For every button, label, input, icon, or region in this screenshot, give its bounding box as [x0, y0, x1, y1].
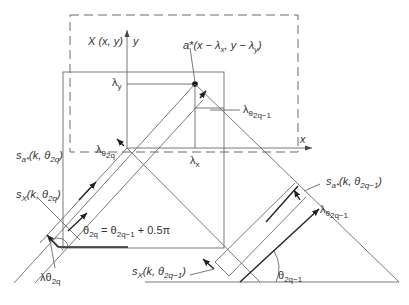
s-x-theta-2q-1-arrow	[203, 259, 214, 269]
strip-2q-1-line-a	[215, 183, 295, 262]
lambda-theta-2q-bottom-label: λθ2q	[40, 271, 61, 286]
s-x-theta-2q-1-leader	[190, 269, 214, 275]
strip-2q-1-cap	[215, 262, 229, 276]
s-a-theta-2q-label: sa*(k, θ2q)	[16, 149, 63, 164]
s-a-theta-2q-1-leader	[304, 184, 320, 191]
a-star-label: a*(x − λx, y − λy)	[183, 39, 262, 54]
s-x-theta-2q-label: sX(k, θ2q)	[16, 188, 61, 203]
strip-2q-line-upper	[14, 84, 195, 283]
lambda-theta-2q-1-label-bottom: λθ2q−1	[320, 203, 349, 220]
s-x-theta-2q-1-label: sX(k, θ2q−1)	[132, 265, 186, 280]
s-a-theta-2q-1-arrow	[266, 186, 298, 222]
x-axis-label: x	[299, 133, 306, 145]
function-x-label: X (x, y)	[87, 35, 123, 47]
y-axis-label: y	[132, 35, 140, 47]
lambda-x-label: λx	[190, 154, 200, 169]
lambda-theta-2q-1-label-top: λθ2q−1	[243, 103, 272, 120]
s-a-theta-2q-1-arrowhead	[294, 190, 300, 200]
strip-2q-1-line-through-origin	[127, 148, 260, 282]
lambda-theta-2q-marker	[117, 139, 124, 146]
projection-geometry-diagram: X (x, y) y x a*(x − λx, y − λy) λy λx λθ…	[0, 0, 409, 305]
lambda-y-label: λy	[112, 76, 122, 91]
a-star-leader	[190, 48, 195, 82]
lambda-theta-2q-label: λθ2q	[96, 143, 115, 160]
theta-2q-direction-vector-2	[79, 182, 96, 200]
s-a-theta-2q-1-label: sa*(k, θ2q−1)	[326, 175, 382, 190]
theta-relation-equation: θ2q = θ2q−1 + 0.5π	[83, 224, 171, 239]
